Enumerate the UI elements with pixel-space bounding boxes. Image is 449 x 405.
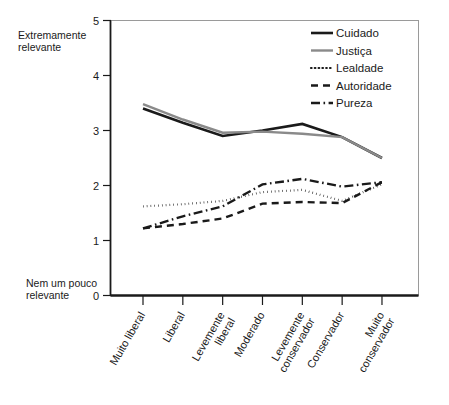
series-group: [143, 104, 382, 228]
y-tick-label: 0: [93, 290, 99, 302]
legend-item-lealdade[interactable]: Lealdade: [311, 62, 383, 74]
legend-label: Pureza: [336, 97, 373, 109]
category-label: Liberal: [160, 310, 187, 345]
legend-item-cuidado[interactable]: Cuidado: [311, 27, 379, 39]
legend-label: Justiça: [336, 45, 372, 57]
y-tick-label: 1: [93, 235, 99, 247]
series-line-cuidado: [143, 109, 382, 159]
category-label: Muitoconservador: [346, 309, 397, 374]
y-tick-label: 2: [93, 180, 99, 192]
category-label: Levementeliberal: [189, 310, 237, 369]
y-tick-label: 4: [93, 70, 99, 82]
legend-label: Autoridade: [336, 80, 392, 92]
legend-item-autoridade[interactable]: Autoridade: [311, 80, 392, 92]
chart-canvas: 012345 Muito liberalLiberalLevementelibe…: [0, 0, 449, 405]
chart-legend: CuidadoJustiçaLealdadeAutoridadePureza: [311, 27, 392, 109]
category-label-line: Moderado: [232, 310, 267, 359]
category-label: Moderado: [232, 310, 267, 359]
legend-item-pureza[interactable]: Pureza: [311, 97, 373, 109]
legend-label: Lealdade: [336, 62, 383, 74]
x-tick-group: [143, 296, 382, 305]
y-axis-high-caption-line1: Extremamente: [18, 29, 86, 41]
legend-label: Cuidado: [336, 27, 379, 39]
y-tick-group: 012345: [93, 15, 111, 302]
category-label-group: Muito liberalLiberalLevementeliberalMode…: [107, 309, 397, 374]
series-line-autoridade: [143, 182, 382, 228]
y-axis-high-caption-line2: relevante: [18, 41, 61, 53]
y-tick-label: 5: [93, 15, 99, 27]
category-label-line: Liberal: [160, 310, 187, 345]
y-axis-low-caption-line1: Nem um pouco: [26, 277, 97, 289]
category-label-line: Muito liberal: [107, 310, 147, 367]
series-line-justia: [143, 104, 382, 158]
category-label: Muito liberal: [107, 310, 147, 367]
legend-item-justia[interactable]: Justiça: [311, 45, 372, 57]
y-axis-low-caption-line2: relevante: [26, 289, 69, 301]
y-tick-label: 3: [93, 125, 99, 137]
line-chart-figure: 012345 Muito liberalLiberalLevementelibe…: [0, 0, 449, 405]
